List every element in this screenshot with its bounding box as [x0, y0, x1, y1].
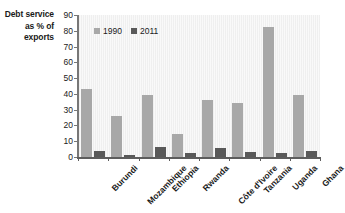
x-tick-mark [199, 158, 200, 161]
bars-layer [78, 15, 320, 157]
bar-mozambique-2011[interactable] [124, 155, 135, 157]
y-tick-mark [74, 157, 77, 158]
bar-c-te-d-ivoire-1990[interactable] [202, 100, 213, 157]
x-tick-mark [78, 158, 79, 161]
y-tick-mark [74, 125, 77, 126]
x-tick-mark [139, 158, 140, 161]
bar-rwanda-2011[interactable] [185, 153, 196, 157]
x-tick-mark [290, 158, 291, 161]
x-category-label-burundi: Burundi [109, 163, 139, 193]
legend-label-1990: 1990 [103, 26, 122, 36]
y-axis-tick-labels: 0102030405060708090 [52, 0, 77, 213]
x-tick-mark [260, 158, 261, 161]
y-axis-title: Debt service as % of exports [2, 9, 54, 44]
x-tick-mark [229, 158, 230, 161]
bar-ethiopia-2011[interactable] [155, 147, 166, 157]
legend-swatch-2011-icon [131, 28, 137, 34]
y-tick-mark [74, 110, 77, 111]
y-tick-mark [74, 62, 77, 63]
x-tick-mark [108, 158, 109, 161]
y-tick-mark [74, 141, 77, 142]
y-tick-mark [74, 94, 77, 95]
bar-tanzania-1990[interactable] [232, 103, 243, 157]
bar-burundi-1990[interactable] [81, 89, 92, 157]
bar-uganda-2011[interactable] [276, 153, 287, 157]
x-tick-mark [320, 158, 321, 161]
y-tick-mark [74, 78, 77, 79]
bar-rwanda-1990[interactable] [172, 134, 183, 157]
y-tick-mark [74, 15, 77, 16]
legend-item-1990[interactable]: 1990 [94, 26, 122, 36]
legend-label-2011: 2011 [140, 26, 158, 36]
bar-ghana-1990[interactable] [293, 95, 304, 157]
bar-uganda-1990[interactable] [263, 27, 274, 157]
legend-item-2011[interactable]: 2011 [131, 26, 158, 36]
x-category-label-uganda: Uganda [290, 163, 319, 192]
y-tick-mark [74, 31, 77, 32]
bar-mozambique-1990[interactable] [111, 116, 122, 157]
chart-legend: 1990 2011 [94, 26, 158, 36]
x-category-label-ghana: Ghana [319, 163, 345, 189]
bar-c-te-d-ivoire-2011[interactable] [215, 148, 226, 157]
y-tick-mark [74, 47, 77, 48]
x-category-label-rwanda: Rwanda [200, 163, 230, 193]
bar-burundi-2011[interactable] [94, 151, 105, 157]
bar-tanzania-2011[interactable] [245, 152, 256, 157]
bar-ethiopia-1990[interactable] [142, 95, 153, 157]
legend-swatch-1990-icon [94, 28, 100, 34]
x-tick-mark [169, 158, 170, 161]
bar-ghana-2011[interactable] [306, 151, 317, 157]
